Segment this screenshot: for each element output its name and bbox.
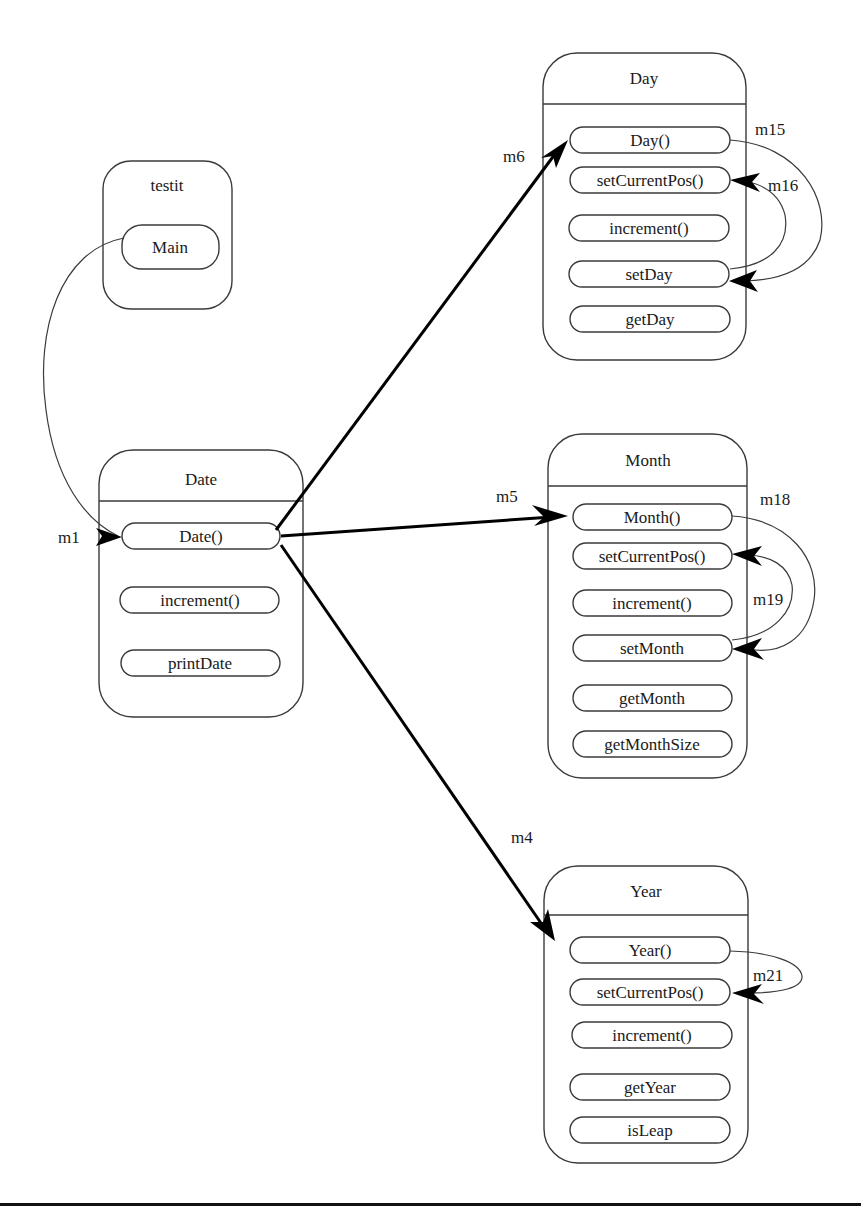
method-label: getDay bbox=[625, 310, 675, 329]
method-month-getmonthsize[interactable]: getMonthSize bbox=[573, 731, 732, 757]
method-label: Date() bbox=[179, 527, 222, 546]
class-title-day: Day bbox=[630, 69, 659, 88]
method-label: Main bbox=[152, 238, 188, 257]
method-year-increment[interactable]: increment() bbox=[572, 1022, 732, 1048]
method-label: getYear bbox=[624, 1078, 676, 1097]
method-month-setcurrentpos[interactable]: setCurrentPos() bbox=[573, 543, 732, 569]
class-testit: testit Main bbox=[103, 161, 232, 309]
message-label: m16 bbox=[768, 176, 798, 195]
method-month-setmonth[interactable]: setMonth bbox=[573, 635, 732, 661]
method-month-getmonth[interactable]: getMonth bbox=[573, 685, 732, 711]
class-box-date bbox=[99, 450, 303, 717]
arrow-line bbox=[281, 517, 552, 536]
arrow-line bbox=[276, 150, 558, 530]
method-label: getMonth bbox=[619, 689, 686, 708]
class-date: Date Date() increment() printDate bbox=[99, 450, 303, 717]
class-title-testit: testit bbox=[150, 176, 183, 195]
method-day-setcurrentpos[interactable]: setCurrentPos() bbox=[570, 167, 730, 193]
message-m6: m6 bbox=[276, 140, 568, 530]
method-label: setDay bbox=[625, 265, 673, 284]
method-label: printDate bbox=[168, 654, 232, 673]
class-year: Year Year() setCurrentPos() increment() … bbox=[544, 866, 748, 1163]
message-label: m15 bbox=[755, 120, 785, 139]
method-date-increment[interactable]: increment() bbox=[120, 587, 279, 613]
method-day-setday[interactable]: setDay bbox=[569, 261, 729, 287]
class-title-year: Year bbox=[630, 882, 662, 901]
method-year-isleap[interactable]: isLeap bbox=[570, 1117, 730, 1143]
method-month-constructor[interactable]: Month() bbox=[573, 504, 732, 530]
message-m4: m4 bbox=[281, 545, 555, 941]
class-title-date: Date bbox=[185, 470, 217, 489]
method-label: Year() bbox=[629, 941, 672, 960]
method-label: increment() bbox=[160, 591, 239, 610]
message-label: m1 bbox=[58, 528, 80, 547]
message-label: m6 bbox=[503, 147, 525, 166]
method-label: increment() bbox=[609, 219, 688, 238]
class-title-month: Month bbox=[625, 451, 671, 470]
method-label: isLeap bbox=[627, 1121, 672, 1140]
method-label: setCurrentPos() bbox=[597, 171, 704, 190]
class-day: Day Day() setCurrentPos() increment() se… bbox=[543, 53, 746, 360]
method-label: setMonth bbox=[620, 639, 685, 658]
method-year-getyear[interactable]: getYear bbox=[570, 1074, 730, 1100]
class-month: Month Month() setCurrentPos() increment(… bbox=[548, 434, 747, 778]
method-day-increment[interactable]: increment() bbox=[569, 215, 729, 241]
method-label: setCurrentPos() bbox=[597, 983, 704, 1002]
method-label: increment() bbox=[612, 594, 691, 613]
method-year-constructor[interactable]: Year() bbox=[570, 937, 730, 963]
message-label: m4 bbox=[511, 828, 533, 847]
method-label: Month() bbox=[624, 508, 681, 527]
call-graph-diagram: testit Main Date Date() increment() prin… bbox=[0, 0, 861, 1228]
bottom-rule bbox=[0, 1203, 861, 1206]
method-label: Day() bbox=[630, 131, 670, 150]
method-date-printdate[interactable]: printDate bbox=[121, 650, 280, 676]
method-label: increment() bbox=[612, 1026, 691, 1045]
message-m5: m5 bbox=[281, 487, 568, 536]
arrow-line bbox=[281, 545, 543, 926]
message-label: m21 bbox=[753, 966, 783, 985]
message-label: m19 bbox=[753, 590, 783, 609]
method-label: getMonthSize bbox=[604, 735, 699, 754]
method-day-constructor[interactable]: Day() bbox=[570, 127, 730, 153]
method-main[interactable]: Main bbox=[122, 225, 219, 269]
method-day-getday[interactable]: getDay bbox=[570, 306, 730, 332]
method-label: setCurrentPos() bbox=[599, 547, 706, 566]
method-date-constructor[interactable]: Date() bbox=[122, 523, 280, 549]
method-year-setcurrentpos[interactable]: setCurrentPos() bbox=[570, 979, 730, 1005]
message-label: m5 bbox=[496, 487, 518, 506]
message-label: m18 bbox=[760, 490, 790, 509]
method-month-increment[interactable]: increment() bbox=[573, 590, 732, 616]
